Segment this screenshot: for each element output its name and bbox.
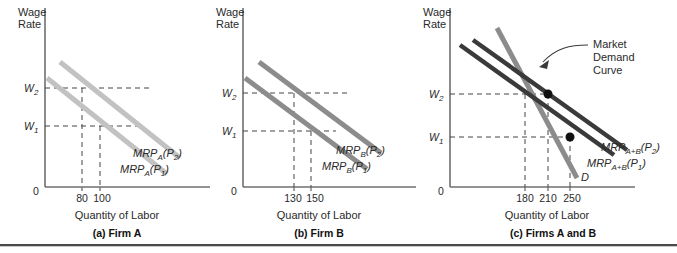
- origin-label-a: 0: [33, 185, 39, 197]
- panel-caption-b: (b) Firm B: [294, 227, 344, 239]
- eq-point-w2-210: [544, 90, 553, 99]
- y-axis-title-a-line1: Wage: [18, 6, 46, 18]
- curve-label-mrp-b-p2: MRPB(P2): [336, 144, 385, 159]
- x-tick-label-100-a: 100: [93, 192, 111, 204]
- x-axis-title-c: Quantity of Labor: [505, 209, 590, 221]
- annotation-market-demand-line3: Curve: [593, 64, 622, 76]
- x-tick-label-250-c: 250: [563, 192, 581, 204]
- y-axis-title-c-line2: Rate: [423, 18, 446, 30]
- curve-mrp-ab-p1: [460, 45, 614, 155]
- annotation-market-demand-line2: Demand: [593, 51, 635, 63]
- y-tick-label-w2-b: W2: [222, 87, 237, 102]
- panel-firm-a: Wage Rate W2 W1 0 80 100: [0, 0, 225, 253]
- y-axis-title-b-line2: Rate: [216, 18, 239, 30]
- y-tick-label-w1-b: W1: [222, 125, 236, 140]
- eq-point-w1-250: [566, 133, 575, 142]
- y-tick-label-w2-a: W2: [24, 82, 39, 97]
- x-axis-title-b: Quantity of Labor: [277, 209, 362, 221]
- annotation-leader-line: [543, 45, 588, 62]
- y-tick-label-w2-c: W2: [429, 88, 444, 103]
- panel-firms-a-and-b: Wage Rate Market Demand Curve: [425, 0, 677, 253]
- curve-label-demand-d: D: [581, 171, 589, 183]
- x-tick-label-150-b: 150: [306, 192, 324, 204]
- curve-mrp-a-p2: [60, 62, 180, 158]
- panel-caption-a: (a) Firm A: [93, 227, 142, 239]
- x-axis-title-a: Quantity of Labor: [75, 209, 160, 221]
- bottom-divider-rule: [0, 244, 677, 247]
- curve-label-mrp-a-p1: MRPA(P1): [120, 163, 169, 178]
- curve-label-mrp-ab-p1: MRPA+B(P1): [587, 157, 646, 172]
- y-axis-title-b-line1: Wage: [216, 6, 244, 18]
- y-axis-title-a-line2: Rate: [18, 18, 41, 30]
- curve-mrp-b-p2: [259, 62, 381, 153]
- curve-label-mrp-a-p2: MRPA(P2): [133, 147, 182, 162]
- origin-label-c: 0: [438, 185, 444, 197]
- x-tick-label-80-a: 80: [76, 192, 88, 204]
- panel-firm-b: Wage Rate W2 W1 0 130 150 Quantity of La…: [218, 0, 433, 253]
- x-tick-label-180-c: 180: [516, 192, 534, 204]
- y-axis-title-c-line1: Wage: [423, 6, 451, 18]
- x-tick-label-130-b: 130: [284, 192, 302, 204]
- panel-caption-c: (c) Firms A and B: [510, 227, 597, 239]
- y-tick-label-w1-c: W1: [429, 131, 443, 146]
- y-tick-label-w1-a: W1: [24, 120, 38, 135]
- origin-label-b: 0: [231, 185, 237, 197]
- x-tick-label-210-c: 210: [539, 192, 557, 204]
- annotation-market-demand-line1: Market: [593, 38, 627, 50]
- figure-root: Wage Rate W2 W1 0 80 100: [0, 0, 677, 253]
- curve-label-mrp-b-p1: MRPB(P1): [322, 160, 371, 175]
